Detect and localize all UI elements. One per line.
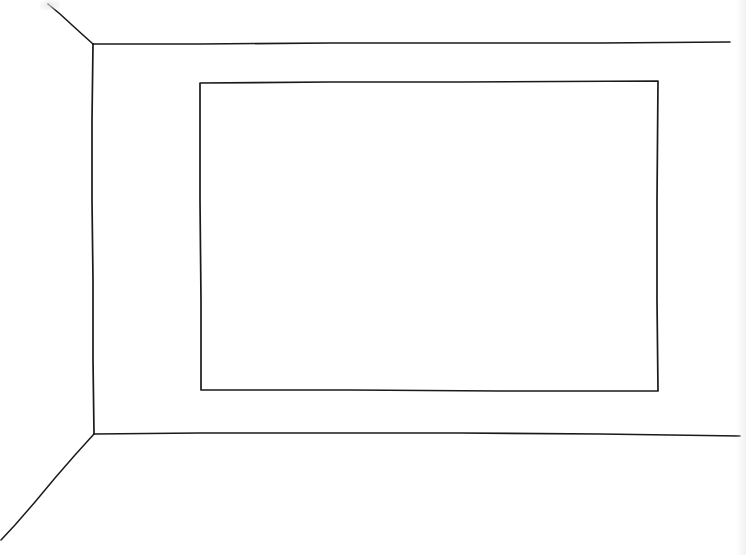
room-sketch: ceiling edge receding toward top-left co… xyxy=(0,0,746,555)
ceiling-line-stroke: ceiling line along back wall xyxy=(93,42,730,44)
ink-layer: ceiling edge receding toward top-left co… xyxy=(1,4,740,540)
floor-diagonal-stroke: floor edge receding toward bottom-left c… xyxy=(1,434,94,540)
left-wall-corner-stroke: vertical corner between left wall and ba… xyxy=(92,44,94,434)
floor-line-stroke: floor line along back wall xyxy=(94,433,740,436)
ceiling-diagonal-stroke: ceiling edge receding toward top-left co… xyxy=(48,4,93,44)
wall-frame-stroke: rectangle drawn on back wall (picture fr… xyxy=(200,81,658,391)
